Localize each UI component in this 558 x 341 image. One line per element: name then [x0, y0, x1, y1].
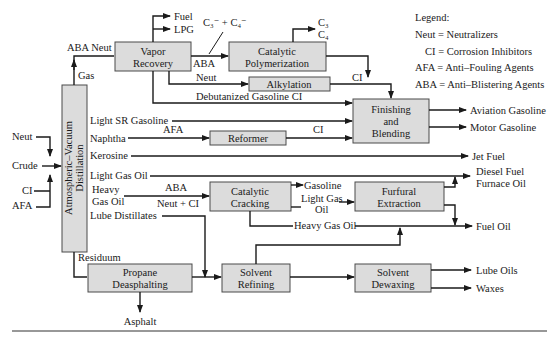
legend-item-neut: Neut = Neutralizers	[415, 29, 498, 40]
gas-stream: Gas ABA Neut	[67, 42, 114, 85]
legend: Legend: Neut = Neutralizers CI = Corrosi…	[415, 12, 544, 90]
finishing-label-3: Blending	[372, 128, 411, 139]
cat-cracking-label-2: Cracking	[231, 198, 270, 209]
cat-cracking-label-1: Catalytic	[231, 186, 269, 197]
legend-item-aba: ABA = Anti–Blistering Agents	[415, 79, 544, 90]
product-furnace-oil: Furnace Oil	[476, 178, 526, 189]
distillation-label-1: Atmospheric–Vacuum	[63, 121, 74, 215]
residuum-label: Residuum	[78, 252, 121, 263]
kerosine-label: Kerosine	[90, 150, 128, 161]
neut-alk-label: Neut	[196, 72, 216, 83]
reformer-label: Reformer	[228, 133, 269, 144]
cat-poly-label-1: Catalytic	[258, 46, 296, 57]
fuel-label: Fuel	[174, 11, 193, 22]
product-diesel-fuel: Diesel Fuel	[476, 166, 524, 177]
solvent-refining-label-1: Solvent	[240, 267, 272, 278]
products: Aviation Gasoline Motor Gasoline Jet Fue…	[470, 105, 546, 294]
unit-distillation: Atmospheric–Vacuum Distillation	[62, 85, 87, 252]
product-fuel-oil: Fuel Oil	[476, 221, 511, 232]
aba-cc-label: ABA	[165, 182, 188, 193]
product-lube-oils: Lube Oils	[476, 265, 518, 276]
ci-reformer-label: CI	[313, 124, 324, 135]
furfural-label-1: Furfural	[382, 186, 416, 197]
furfural-label-2: Extraction	[377, 198, 421, 209]
afa-naphtha-label: AFA	[163, 124, 184, 135]
legend-item-ci: CI = Corrosion Inhibitors	[425, 46, 532, 57]
cc-lgo-label-2: Oil	[315, 204, 329, 215]
product-waxes: Waxes	[476, 283, 504, 294]
crude-inputs: Neut Crude CI AFA	[12, 131, 61, 211]
finishing-label-2: and	[383, 116, 399, 127]
lpg-label: LPG	[174, 24, 194, 35]
solvent-dewaxing-label-2: Dewaxing	[371, 279, 415, 290]
furfural-outputs	[444, 177, 455, 225]
debutanized-label: Debutanized Gasoline CI	[196, 91, 303, 102]
unit-solvent-dewaxing: Solvent Dewaxing	[355, 264, 431, 292]
gas-label: Gas	[78, 70, 94, 81]
c3-label: C₃	[318, 17, 329, 28]
light-sr-gasoline-label: Light SR Gasoline	[90, 115, 169, 126]
finishing-outputs	[429, 110, 466, 127]
light-gas-oil-label: Light Gas Oil	[90, 170, 148, 181]
product-motor-gasoline: Motor Gasoline	[470, 122, 537, 133]
propane-label-1: Propane	[123, 267, 158, 278]
aba-poly-label: ABA	[193, 58, 216, 69]
alkylation-label: Alkylation	[267, 79, 313, 90]
heavy-gas-oil-label-1: Heavy	[92, 184, 120, 195]
product-jet-fuel: Jet Fuel	[472, 151, 505, 162]
cc-lgo-label-1: Light Gas	[301, 193, 343, 204]
cc-hgo-label: Heavy Gas Oil	[294, 220, 356, 231]
cc-gasoline-label: Gasoline	[304, 180, 342, 191]
heavy-gas-oil-label-2: Gas Oil	[92, 196, 124, 207]
asphalt-label: Asphalt	[124, 316, 157, 327]
input-ci-label: CI	[22, 185, 33, 196]
unit-propane-deasphalting: Propane Deasphalting	[88, 264, 192, 292]
unit-vapor-recovery: Vapor Recovery	[115, 42, 191, 71]
unit-alkylation: Alkylation	[249, 77, 330, 91]
cat-poly-label-2: Polymerization	[245, 58, 310, 69]
c4-label: C₄	[318, 29, 329, 40]
naphtha-label: Naphtha	[90, 133, 126, 144]
product-aviation-gasoline: Aviation Gasoline	[470, 105, 546, 116]
vapor-recovery-label-1: Vapor	[140, 46, 166, 57]
unit-catalytic-polymerization: Catalytic Polymerization	[229, 42, 326, 71]
finishing-label-1: Finishing	[371, 104, 411, 115]
input-crude-label: Crude	[12, 160, 38, 171]
neut-ci-cc-label: Neut + CI	[157, 198, 200, 209]
input-neut-label: Neut	[12, 131, 32, 142]
legend-item-afa: AFA = Anti–Fouling Agents	[415, 62, 534, 73]
unit-reformer: Reformer	[210, 131, 286, 145]
distillation-label-2: Distillation	[74, 144, 85, 192]
vapor-recovery-label-2: Recovery	[133, 58, 174, 69]
unit-furfural-extraction: Furfural Extraction	[355, 182, 444, 211]
refinery-flow-diagram: Atmospheric–Vacuum Distillation Vapor Re…	[0, 0, 558, 341]
legend-heading: Legend:	[415, 12, 449, 23]
input-afa-label: AFA	[12, 200, 33, 211]
solvent-refining-label-2: Refining	[238, 279, 275, 290]
aba-neut-label: ABA Neut	[67, 42, 112, 53]
propane-label-2: Deasphalting	[112, 279, 168, 290]
solvent-dewaxing-label-1: Solvent	[377, 267, 409, 278]
lube-distillates-label: Lube Distillates	[90, 210, 157, 221]
unit-solvent-refining: Solvent Refining	[222, 264, 290, 292]
unit-finishing-blending: Finishing and Blending	[353, 99, 429, 143]
unit-catalytic-cracking: Catalytic Cracking	[210, 182, 291, 211]
c3c4-olefins-label: C₃⁻ + C₄⁻	[203, 17, 247, 28]
ci-poly-label: CI	[352, 72, 363, 83]
